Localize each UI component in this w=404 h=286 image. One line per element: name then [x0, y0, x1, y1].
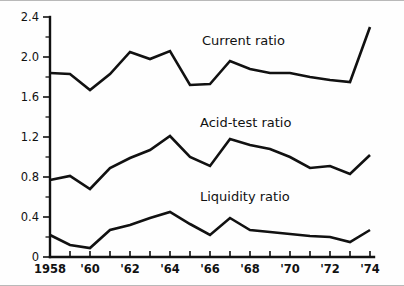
x-axis-tick-label: 1958: [34, 262, 66, 276]
line-chart-plot: 00.40.81.21.62.02.4 1958'60'62'64'66'68'…: [0, 0, 404, 286]
x-axis-tick-label: '72: [320, 262, 340, 276]
x-axis-group: 1958'60'62'64'66'68'70'72'74: [34, 251, 380, 276]
series-label-liquidity-ratio: Liquidity ratio: [200, 189, 290, 204]
x-axis-tick-label: '68: [240, 262, 260, 276]
x-axis-tick-label: '60: [80, 262, 100, 276]
y-axis-tick-labels: 00.40.81.21.62.02.4: [21, 10, 39, 264]
series-label-acid-test-ratio: Acid-test ratio: [200, 115, 291, 130]
chart-figure: 00.40.81.21.62.02.4 1958'60'62'64'66'68'…: [0, 0, 404, 286]
series-line-liquidity-ratio: [50, 212, 370, 248]
y-axis-tick-label: 1.6: [21, 90, 39, 104]
series-label-group: Current ratioAcid-test ratioLiquidity ra…: [200, 33, 291, 204]
y-axis-tick-label: 2.0: [21, 50, 39, 64]
data-series-group: [50, 27, 370, 248]
y-axis-group: 00.40.81.21.62.02.4: [21, 10, 50, 264]
x-axis-tick-labels: 1958'60'62'64'66'68'70'72'74: [34, 262, 380, 276]
x-axis-tick-label: '74: [360, 262, 380, 276]
y-axis-tick-label: 0.8: [21, 170, 39, 184]
x-axis-tick-label: '64: [160, 262, 180, 276]
y-axis-tick-label: 2.4: [21, 10, 39, 24]
y-axis-tick-label: 1.2: [21, 130, 39, 144]
series-line-acid-test-ratio: [50, 136, 370, 189]
x-axis-tick-label: '62: [120, 262, 140, 276]
x-axis-tick-label: '70: [280, 262, 300, 276]
series-label-current-ratio: Current ratio: [202, 33, 285, 48]
y-axis-tick-label: 0.4: [21, 210, 39, 224]
x-axis-tick-label: '66: [200, 262, 220, 276]
